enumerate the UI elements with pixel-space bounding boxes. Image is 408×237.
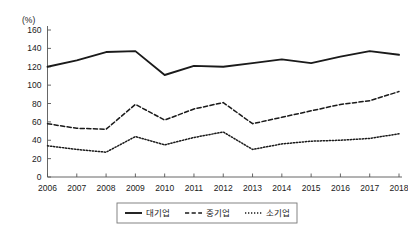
x-tick-label: 2013	[243, 183, 262, 193]
x-tick-label: 2015	[302, 183, 321, 193]
x-tick-label: 2011	[185, 183, 204, 193]
y-axis-unit-label: (%)	[22, 15, 35, 25]
legend-label-3: 소기업	[266, 208, 290, 218]
y-tick-label: 80	[32, 99, 42, 109]
x-tick-label: 2008	[97, 183, 116, 193]
x-tick-label: 2009	[126, 183, 145, 193]
y-tick-label: 0	[37, 172, 42, 182]
x-tick-label: 2018	[390, 183, 408, 193]
chart-legend: 대기업중기업소기업	[117, 203, 297, 223]
y-tick-label: 60	[32, 117, 42, 127]
x-tick-label: 2014	[272, 183, 291, 193]
x-tick-label: 2016	[331, 183, 350, 193]
y-tick-label: 120	[27, 62, 41, 72]
y-tick-label: 100	[27, 80, 41, 90]
series-line-1	[48, 51, 400, 75]
x-tick-label: 2017	[360, 183, 379, 193]
x-tick-label: 2010	[155, 183, 174, 193]
y-tick-label: 140	[27, 43, 41, 53]
data-series-group	[48, 51, 400, 152]
legend-label-2: 중기업	[206, 208, 230, 218]
line-chart: 020406080100120140160 200620072008200920…	[0, 0, 408, 237]
y-axis-tick-marks	[48, 30, 52, 177]
y-tick-label: 20	[32, 154, 42, 164]
x-tick-label: 2012	[214, 183, 233, 193]
x-tick-label: 2007	[67, 183, 86, 193]
x-axis-tick-labels: 2006200720082009201020112012201320142015…	[38, 183, 408, 193]
series-line-2	[48, 92, 400, 130]
y-axis-tick-labels: 020406080100120140160	[27, 25, 41, 182]
x-tick-label: 2006	[38, 183, 57, 193]
y-tick-label: 160	[27, 25, 41, 35]
series-line-3	[48, 132, 400, 152]
x-axis-tick-marks	[48, 174, 400, 178]
chart-figure: 020406080100120140160 200620072008200920…	[0, 0, 408, 237]
legend-label-1: 대기업	[146, 208, 170, 218]
y-tick-label: 40	[32, 135, 42, 145]
